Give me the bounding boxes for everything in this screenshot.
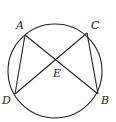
chord-ab [25, 35, 98, 94]
circle-chord-diagram: A C D B E [0, 0, 116, 122]
label-d: D [1, 94, 11, 107]
chord-cd [15, 33, 87, 94]
label-c: C [91, 19, 100, 32]
label-a: A [15, 19, 24, 32]
label-e: E [52, 67, 61, 80]
label-b: B [100, 94, 109, 107]
